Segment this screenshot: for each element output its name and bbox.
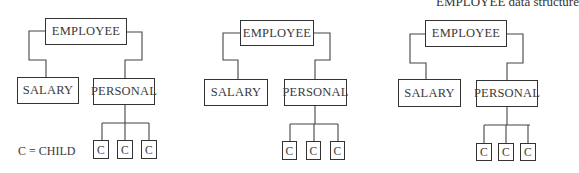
personal-node: PERSONAL [284,79,347,106]
salary-node: SALARY [398,79,461,107]
child-node: C [476,143,492,161]
child-node: C [306,141,321,160]
employee-node: EMPLOYEE [425,20,507,47]
employee-node: EMPLOYEE [240,20,314,46]
child-node: C [282,141,297,160]
child-node: C [93,140,109,159]
legend-child: C = CHILD [18,144,75,159]
personal-node: PERSONAL [476,80,538,107]
child-node: C [498,143,514,161]
salary-node: SALARY [17,77,79,104]
salary-node: SALARY [204,79,268,106]
child-node: C [117,140,133,159]
child-node: C [520,143,536,161]
personal-node: PERSONAL [93,78,155,105]
child-node: C [141,140,157,159]
employee-node: EMPLOYEE [45,18,127,45]
child-node: C [330,141,345,160]
